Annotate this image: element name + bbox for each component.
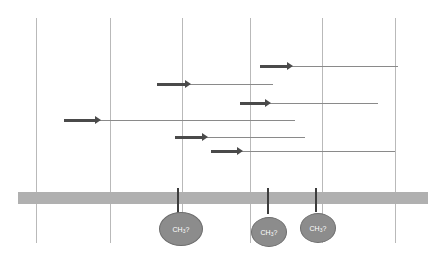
diagram-canvas: CH3?CH3?CH3? — [0, 0, 444, 261]
read-track — [0, 78, 444, 92]
reference-genome-bar — [18, 192, 428, 204]
modification-stem — [177, 188, 179, 214]
methylation-marker-label: CH3? — [309, 225, 326, 232]
read-track — [0, 97, 444, 111]
methylation-marker-mod-3[interactable]: CH3? — [300, 213, 336, 243]
read-mapped-segment — [64, 119, 95, 122]
methylation-marker-label: CH3? — [172, 226, 189, 233]
read-direction-arrow-icon — [95, 116, 101, 124]
read-mapped-segment — [175, 136, 202, 139]
modification-stem — [267, 188, 269, 214]
read-direction-arrow-icon — [265, 99, 271, 107]
read-direction-arrow-icon — [287, 62, 293, 70]
read-track — [0, 145, 444, 159]
methylation-marker-mod-2[interactable]: CH3? — [251, 217, 287, 247]
methylation-marker-label: CH3? — [260, 229, 277, 236]
modification-stem — [315, 188, 317, 212]
read-direction-arrow-icon — [237, 147, 243, 155]
read-mapped-segment — [240, 102, 265, 105]
methylation-marker-mod-1[interactable]: CH3? — [159, 212, 203, 246]
read-track — [0, 131, 444, 145]
read-direction-arrow-icon — [202, 133, 208, 141]
read-direction-arrow-icon — [185, 80, 191, 88]
read-track — [0, 60, 444, 74]
read-mapped-segment — [211, 150, 237, 153]
read-mapped-segment — [157, 83, 185, 86]
read-track — [0, 114, 444, 128]
read-mapped-segment — [260, 65, 287, 68]
